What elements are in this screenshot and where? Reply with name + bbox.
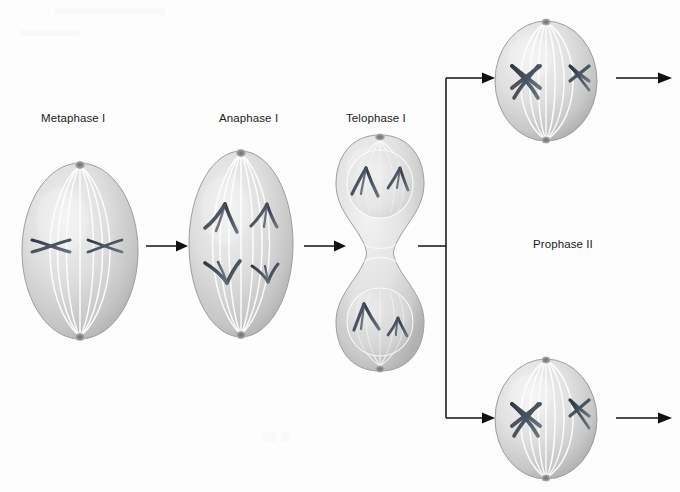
- arrow-anaphase-to-telophase: [304, 241, 346, 252]
- arrow-metaphase-to-anaphase: [146, 241, 188, 252]
- arrow-exit-bottom: [616, 413, 672, 424]
- meiosis-diagram: Metaphase I Anaphase I Telophase I Proph…: [0, 0, 680, 492]
- arrow-telophase-to-prophase-branch: [418, 73, 495, 424]
- arrow-layer: [0, 0, 680, 492]
- arrow-exit-top: [616, 73, 672, 84]
